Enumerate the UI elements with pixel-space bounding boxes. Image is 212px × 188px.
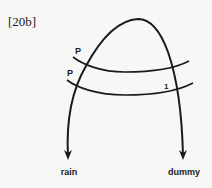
rain-label: rain: [61, 167, 78, 177]
arch-diagram: [0, 0, 212, 188]
lower-band-line: [67, 80, 193, 95]
upper-p-label: P: [75, 46, 81, 56]
dummy-label: dummy: [168, 167, 200, 177]
one-label: 1: [164, 82, 168, 91]
lower-p-label: P: [67, 68, 73, 78]
